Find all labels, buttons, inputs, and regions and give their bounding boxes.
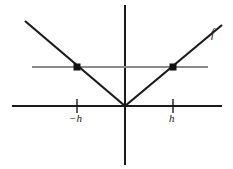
x-tick-label-negative-h: −h — [69, 113, 82, 124]
point-marker-positive-h — [170, 64, 177, 71]
function-label: f — [211, 27, 214, 39]
x-tick-label-positive-h: h — [169, 113, 175, 124]
point-marker-negative-h — [74, 64, 81, 71]
absolute-value-function-figure: f −h h — [0, 0, 233, 169]
figure-canvas — [0, 0, 233, 169]
